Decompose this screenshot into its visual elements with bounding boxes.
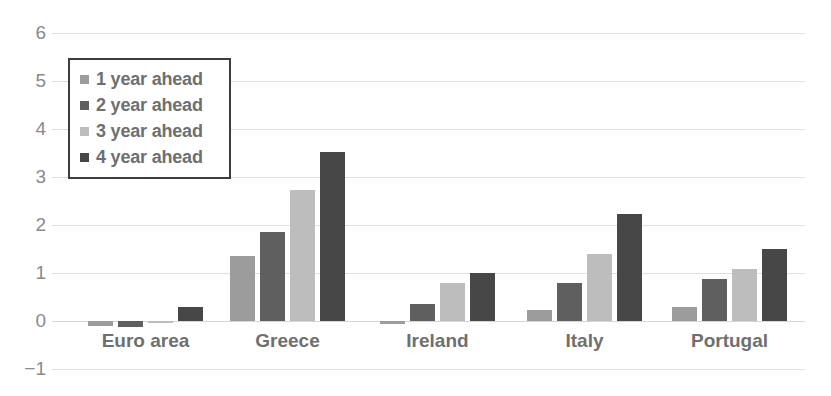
gridline-2 — [52, 225, 805, 226]
bar-portugal-4-year-ahead — [762, 249, 787, 321]
bar-ireland-3-year-ahead — [440, 283, 465, 321]
y-tick-label--1: −1 — [14, 358, 46, 380]
legend-item-4-year-ahead: 4 year ahead — [80, 145, 221, 171]
y-tick-label-2: 2 — [14, 214, 46, 236]
bar-ireland-1-year-ahead — [380, 321, 405, 324]
y-tick-label-3: 3 — [14, 166, 46, 188]
y-tick-label-5: 5 — [14, 70, 46, 92]
bar-greece-1-year-ahead — [230, 256, 255, 321]
y-tick-label-0: 0 — [14, 310, 46, 332]
bar-italy-2-year-ahead — [557, 283, 582, 321]
bar-chart: 6543210−1 Euro areaGreeceIrelandItalyPor… — [0, 0, 831, 396]
gridline-1 — [52, 273, 805, 274]
legend-swatch-icon-4 — [80, 153, 89, 162]
legend-item-3-year-ahead: 3 year ahead — [80, 119, 221, 145]
bar-portugal-3-year-ahead — [732, 269, 757, 321]
bar-euro-area-1-year-ahead — [88, 321, 113, 326]
y-tick-label-1: 1 — [14, 262, 46, 284]
bar-ireland-4-year-ahead — [470, 273, 495, 321]
legend-swatch-icon-3 — [80, 127, 89, 136]
bar-portugal-1-year-ahead — [672, 307, 697, 321]
bar-italy-3-year-ahead — [587, 254, 612, 321]
legend-label: 3 year ahead — [96, 121, 203, 142]
legend-label: 4 year ahead — [96, 147, 203, 168]
bar-greece-4-year-ahead — [320, 152, 345, 321]
legend-swatch-icon-1 — [80, 75, 89, 84]
legend-label: 2 year ahead — [96, 95, 203, 116]
y-tick-label-6: 6 — [14, 22, 46, 44]
legend-item-1-year-ahead: 1 year ahead — [80, 66, 221, 92]
bar-euro-area-4-year-ahead — [178, 307, 203, 321]
bar-portugal-2-year-ahead — [702, 279, 727, 321]
bar-italy-4-year-ahead — [617, 214, 642, 321]
bar-euro-area-2-year-ahead — [118, 321, 143, 327]
bar-ireland-2-year-ahead — [410, 304, 435, 321]
gridline-6 — [52, 33, 805, 34]
bar-italy-1-year-ahead — [527, 310, 552, 321]
bar-euro-area-3-year-ahead — [148, 321, 173, 323]
chart-legend: 1 year ahead2 year ahead3 year ahead4 ye… — [68, 58, 231, 179]
legend-swatch-icon-2 — [80, 101, 89, 110]
gridline--1 — [52, 369, 805, 370]
y-tick-label-4: 4 — [14, 118, 46, 140]
legend-item-2-year-ahead: 2 year ahead — [80, 92, 221, 118]
bar-greece-2-year-ahead — [260, 232, 285, 321]
legend-label: 1 year ahead — [96, 69, 203, 90]
bar-greece-3-year-ahead — [290, 190, 315, 321]
